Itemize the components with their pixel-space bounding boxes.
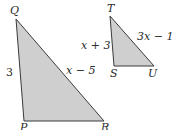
vertex-p-label: P [19,121,28,130]
vertex-s-label: S [110,67,118,80]
side-st-label: x + 3 [81,39,110,52]
side-tu-label: 3x − 11 [137,30,173,43]
vertex-q-label: Q [10,4,19,17]
vertex-t-label: T [107,2,116,15]
similar-triangles-diagram: Q P R 3 x − 5 T S U x + 3 3x − 11 [0,0,173,130]
side-qr-label: x − 5 [66,64,95,77]
vertex-u-label: U [148,67,158,80]
vertex-r-label: R [100,121,109,130]
side-pq-label: 3 [6,66,13,79]
